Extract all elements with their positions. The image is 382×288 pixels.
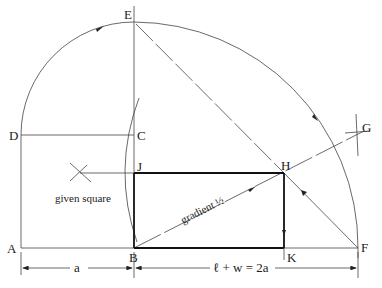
dashed-line-eh bbox=[136, 24, 284, 173]
label-g-point: G bbox=[362, 120, 371, 135]
label-dim-a: a bbox=[74, 260, 80, 275]
label-dim-sum: ℓ + w = 2a bbox=[213, 260, 269, 275]
arc-ef bbox=[134, 22, 358, 258]
label-gradient: gradient ½ bbox=[178, 194, 225, 226]
label-f-point: F bbox=[361, 240, 368, 255]
label-e-point: E bbox=[124, 7, 132, 22]
label-b-point: B bbox=[129, 250, 138, 265]
line-fh bbox=[284, 173, 358, 248]
label-c-point: C bbox=[137, 128, 146, 143]
label-j-point: J bbox=[137, 159, 142, 174]
geometry-diagram: A B C D E F G H J K given square gradien… bbox=[0, 0, 382, 288]
label-d-point: D bbox=[9, 128, 18, 143]
arrow-hk bbox=[282, 230, 286, 236]
label-a-point: A bbox=[7, 241, 17, 256]
label-given-square: given square bbox=[55, 192, 111, 204]
label-k-point: K bbox=[287, 250, 297, 265]
label-h-point: H bbox=[281, 158, 290, 173]
arc-de bbox=[21, 22, 134, 135]
cross-mark-left bbox=[70, 163, 91, 182]
